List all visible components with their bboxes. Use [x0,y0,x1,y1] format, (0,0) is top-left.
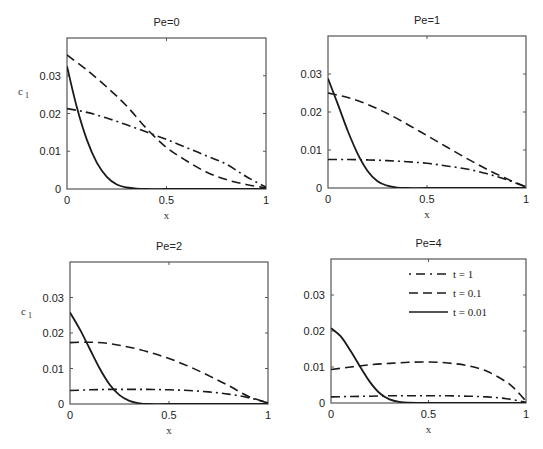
x-axis-label: x [426,423,432,435]
x-tick-label: 0 [64,194,70,206]
y-tick-label: 0.01 [43,363,64,375]
series-line-dashdot [67,109,266,188]
plot-frame [70,262,268,404]
plot-frame [328,36,526,188]
chart-panel-pe-1: Pe=100.010.020.0300.51x [301,14,529,220]
x-axis-label: x [164,209,170,221]
y-tick-label: 0 [319,397,325,409]
x-tick-label: 1 [265,409,271,421]
y-tick-label: 0.02 [43,327,64,339]
chart-title: Pe=0 [154,16,180,28]
y-tick-label: 0.02 [301,106,322,118]
y-tick-label: 0.03 [301,68,322,80]
plot-frame [67,38,266,189]
y-tick-label: 0.03 [43,292,64,304]
y-tick-label: 0.03 [40,70,61,82]
x-tick-label: 0.5 [159,194,174,206]
x-tick-label: 0 [325,193,331,205]
legend-label: t = 0.01 [453,306,487,318]
series-line-dashdot [70,389,268,403]
figure-canvas: Pe=000.010.020.0300.51xc1Pe=100.010.020.… [0,0,543,449]
chart-title: Pe=4 [416,237,442,249]
y-tick-label: 0 [58,398,64,410]
y-tick-label: 0.03 [304,289,325,301]
chart-panel-pe-0: Pe=000.010.020.0300.51xc1 [18,16,269,221]
series-line-dashed [70,342,268,403]
legend: t = 1t = 0.1t = 0.01 [409,268,487,318]
series-line-solid [328,79,526,188]
x-tick-label: 0.5 [161,409,176,421]
series-line-solid [331,328,526,403]
y-tick-label: 0 [55,183,61,195]
x-tick-label: 1 [523,193,529,205]
chart-panel-pe-4: Pe=400.010.020.0300.51xt = 1t = 0.1t = 0… [304,237,529,435]
x-tick-label: 0.5 [419,193,434,205]
y-tick-label: 0.01 [40,145,61,157]
chart-panel-pe-2: Pe=200.010.020.0300.51xc1 [21,240,271,436]
x-tick-label: 1 [263,194,269,206]
x-axis-label: x [424,208,430,220]
y-tick-label: 0 [316,182,322,194]
x-axis-label: x [166,424,172,436]
series-line-dashed [67,55,266,188]
chart-title: Pe=1 [414,14,440,26]
y-tick-label: 0.01 [304,361,325,373]
x-tick-label: 0 [67,409,73,421]
series-line-solid [67,66,266,189]
chart-title: Pe=2 [156,240,182,252]
legend-label: t = 1 [453,268,473,280]
x-tick-label: 0.5 [421,408,436,420]
x-tick-label: 1 [523,408,529,420]
plot-frame [331,259,526,403]
series-line-dashed [328,93,526,187]
y-tick-label: 0.01 [301,144,322,156]
y-tick-label: 0.02 [40,108,61,120]
legend-label: t = 0.1 [453,287,482,299]
x-tick-label: 0 [328,408,334,420]
y-axis-label: c1 [21,305,32,320]
y-tick-label: 0.02 [304,325,325,337]
y-axis-label: c1 [18,85,29,100]
